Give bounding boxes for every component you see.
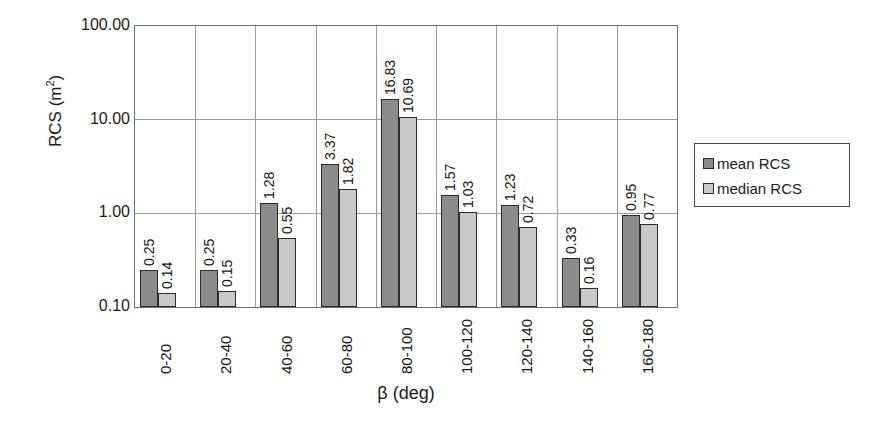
bar-value-label: 10.69 bbox=[401, 78, 415, 113]
bar-group: 1.280.55 bbox=[255, 26, 315, 307]
x-axis-tick-label: 80-100 bbox=[399, 327, 414, 374]
legend-item-label: median RCS bbox=[717, 181, 802, 196]
x-axis-tick-label: 60-80 bbox=[339, 336, 354, 374]
bar-value-label: 1.57 bbox=[443, 164, 457, 191]
bar-median-rcs bbox=[640, 224, 658, 307]
bar-group: 1.571.03 bbox=[436, 26, 496, 307]
legend-swatch-median-icon bbox=[703, 183, 714, 194]
bar-group: 1.230.72 bbox=[496, 26, 556, 307]
bar-value-label: 0.25 bbox=[202, 238, 216, 265]
bar-group: 0.330.16 bbox=[557, 26, 617, 307]
x-axis-tick-label: 120-140 bbox=[519, 319, 534, 374]
bar-value-label: 0.16 bbox=[582, 257, 596, 284]
bar-median-rcs bbox=[580, 288, 598, 307]
bar-median-rcs bbox=[158, 293, 176, 307]
x-axis-tick-labels: 0-2020-4040-6060-8080-100100-120120-1401… bbox=[134, 308, 678, 378]
bar-value-label: 0.55 bbox=[280, 206, 294, 233]
bar-value-label: 1.82 bbox=[341, 158, 355, 185]
x-axis-tick-label: 0-20 bbox=[158, 344, 173, 374]
bar-value-label: 0.25 bbox=[142, 238, 156, 265]
bar-mean-rcs bbox=[562, 258, 580, 307]
bar-mean-rcs bbox=[140, 270, 158, 307]
bar-median-rcs bbox=[399, 117, 417, 307]
bar-value-label: 1.03 bbox=[461, 181, 475, 208]
x-axis-tick-label: 40-60 bbox=[279, 336, 294, 374]
bar-median-rcs bbox=[459, 212, 477, 307]
x-axis-tick-label: 100-120 bbox=[459, 319, 474, 374]
bar-group: 16.8310.69 bbox=[376, 26, 436, 307]
y-axis-tick-label: 10.00 bbox=[56, 111, 130, 127]
bar-mean-rcs bbox=[321, 164, 339, 307]
legend-item: median RCS bbox=[703, 181, 843, 196]
bar-value-label: 3.37 bbox=[323, 133, 337, 160]
x-axis-tick-label: 20-40 bbox=[218, 336, 233, 374]
legend-swatch-mean-icon bbox=[703, 158, 714, 169]
bar-median-rcs bbox=[218, 291, 236, 307]
x-axis-tick-label: 140-160 bbox=[580, 319, 595, 374]
bar-value-label: 0.33 bbox=[564, 227, 578, 254]
bar-value-label: 0.14 bbox=[160, 262, 174, 289]
bar-mean-rcs bbox=[622, 215, 640, 307]
bar-mean-rcs bbox=[260, 203, 278, 307]
bar-value-label: 16.83 bbox=[383, 59, 397, 94]
plot-area: 0.250.140.250.151.280.553.371.8216.8310.… bbox=[134, 25, 678, 308]
bar-median-rcs bbox=[278, 238, 296, 307]
y-axis-tick-labels: 100.0010.001.000.10 bbox=[54, 0, 130, 432]
bar-value-label: 0.15 bbox=[220, 259, 234, 286]
bar-group: 0.250.14 bbox=[135, 26, 195, 307]
legend-item-label: mean RCS bbox=[717, 156, 790, 171]
chart-legend: mean RCSmedian RCS bbox=[694, 143, 850, 207]
bar-mean-rcs bbox=[200, 270, 218, 307]
bar-group: 3.371.82 bbox=[316, 26, 376, 307]
rcs-bar-chart-figure: RCS (m2) 100.0010.001.000.10 0.250.140.2… bbox=[0, 0, 876, 432]
bar-mean-rcs bbox=[441, 195, 459, 307]
bar-value-label: 0.72 bbox=[521, 195, 535, 222]
bar-median-rcs bbox=[339, 189, 357, 307]
y-axis-tick-label: 100.00 bbox=[56, 17, 130, 33]
y-axis-tick-label: 1.00 bbox=[56, 204, 130, 220]
y-axis-tick-label: 0.10 bbox=[56, 298, 130, 314]
bar-mean-rcs bbox=[381, 99, 399, 308]
bar-value-label: 0.77 bbox=[642, 193, 656, 220]
legend-item: mean RCS bbox=[703, 156, 843, 171]
bar-value-label: 1.23 bbox=[503, 174, 517, 201]
x-axis-title: β (deg) bbox=[134, 383, 678, 404]
bar-group: 0.950.77 bbox=[617, 26, 677, 307]
bar-value-label: 1.28 bbox=[262, 172, 276, 199]
bar-median-rcs bbox=[519, 227, 537, 307]
x-axis-tick-label: 160-180 bbox=[640, 319, 655, 374]
bar-mean-rcs bbox=[501, 205, 519, 307]
bar-value-label: 0.95 bbox=[624, 184, 638, 211]
bar-group: 0.250.15 bbox=[195, 26, 255, 307]
